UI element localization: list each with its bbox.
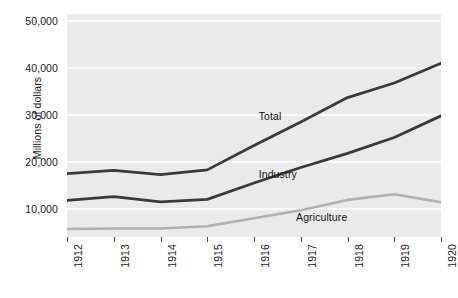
series-label-total: Total bbox=[259, 110, 282, 122]
x-axis-tick-label: 1918 bbox=[353, 244, 365, 268]
x-axis-tick-label: 1915 bbox=[212, 244, 224, 268]
y-axis-tick-label: 50,000 bbox=[25, 15, 58, 27]
x-axis-tick-mark bbox=[207, 237, 208, 242]
plot-area bbox=[67, 14, 441, 237]
series-line-industry bbox=[67, 116, 441, 202]
y-axis-tick-label: 10,000 bbox=[25, 203, 58, 215]
x-axis-tick-label: 1919 bbox=[399, 244, 411, 268]
y-axis-tick-label: 20,000 bbox=[25, 156, 58, 168]
y-axis-tick-label: 40,000 bbox=[25, 62, 58, 74]
x-axis-tick-label: 1916 bbox=[259, 244, 271, 268]
series-line-total bbox=[67, 63, 441, 174]
y-axis-tick-label: 30,000 bbox=[25, 109, 58, 121]
x-axis-tick-mark bbox=[161, 237, 162, 242]
series-label-agriculture: Agriculture bbox=[296, 211, 347, 223]
x-axis: 191219131914191519161917191819191920 bbox=[0, 237, 451, 298]
x-axis-tick-label: 1920 bbox=[446, 244, 458, 268]
series-label-industry: Industry bbox=[259, 168, 297, 180]
x-axis-tick-mark bbox=[301, 237, 302, 242]
x-axis-tick-mark bbox=[348, 237, 349, 242]
x-axis-tick-label: 1912 bbox=[72, 244, 84, 268]
x-axis-tick-mark bbox=[114, 237, 115, 242]
x-axis-tick-mark bbox=[394, 237, 395, 242]
x-axis-tick-label: 1914 bbox=[166, 244, 178, 268]
x-axis-tick-mark bbox=[254, 237, 255, 242]
x-axis-tick-label: 1913 bbox=[119, 244, 131, 268]
series-lines bbox=[67, 14, 441, 237]
x-axis-tick-mark bbox=[441, 237, 442, 242]
x-axis-tick-mark bbox=[67, 237, 68, 242]
x-axis-tick-label: 1917 bbox=[306, 244, 318, 268]
series-line-agriculture bbox=[67, 194, 441, 229]
